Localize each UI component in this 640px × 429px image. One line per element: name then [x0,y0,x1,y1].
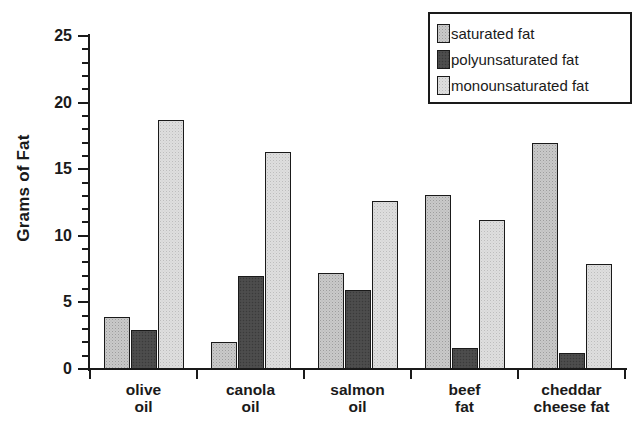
bar-saturated-fat [425,195,451,369]
x-axis-group-separator [410,370,412,379]
legend-label: monounsaturated fat [451,78,589,93]
category-label-line1: beef [449,381,481,398]
x-axis-category-label: beeffat [411,381,518,416]
bar-polyunsaturated-fat [131,330,157,369]
x-axis-category-label: cheddarcheese fat [518,381,625,416]
x-axis-group-separator [196,370,198,379]
bar-polyunsaturated-fat [452,348,478,369]
category-label-line2: oil [304,398,411,415]
x-axis-group-separator [517,370,519,379]
legend-item-saturated-fat[interactable]: saturated fat [437,20,630,46]
saturated-swatch [437,24,450,43]
legend-item-polyunsaturated-fat[interactable]: polyunsaturated fat [437,46,630,72]
category-label-line2: cheese fat [518,398,625,415]
bar-saturated-fat [532,143,558,369]
bar-monounsaturated-fat [158,120,184,369]
bar-saturated-fat [211,342,237,369]
legend: saturated fatpolyunsaturated fatmonounsa… [428,12,632,104]
category-label-line1: cheddar [541,381,601,398]
x-axis-group-separator [624,370,626,379]
bar-saturated-fat [318,273,344,369]
bar-polyunsaturated-fat [559,353,585,369]
category-label-line1: salmon [330,381,384,398]
bar-polyunsaturated-fat [345,290,371,369]
x-axis-group-separator [303,370,305,379]
x-axis-group-separator [89,370,91,379]
bar-saturated-fat [104,317,130,369]
category-label-line1: canola [226,381,275,398]
legend-label: saturated fat [451,26,534,41]
legend-item-monounsaturated-fat[interactable]: monounsaturated fat [437,72,630,98]
monounsaturated-swatch [437,76,450,95]
category-label-line2: oil [90,398,197,415]
bar-monounsaturated-fat [479,220,505,369]
x-axis-category-label: canolaoil [197,381,304,416]
bar-monounsaturated-fat [372,201,398,369]
bar-monounsaturated-fat [586,264,612,369]
bar-chart: Grams of Fat 0510152025 oliveoilcanolaoi… [0,0,640,429]
bar-monounsaturated-fat [265,152,291,369]
category-label-line2: fat [411,398,518,415]
polyunsaturated-swatch [437,50,450,69]
legend-label: polyunsaturated fat [451,52,579,67]
category-label-line1: olive [126,381,161,398]
x-axis-category-label: oliveoil [90,381,197,416]
category-label-line2: oil [197,398,304,415]
x-axis-category-label: salmonoil [304,381,411,416]
bar-polyunsaturated-fat [238,276,264,369]
